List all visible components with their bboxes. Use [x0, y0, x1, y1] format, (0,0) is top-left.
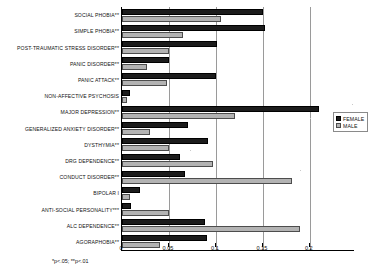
bar-male [122, 226, 300, 232]
category-label: DRG DEPENDENCE** [65, 158, 119, 164]
bar-female [122, 187, 140, 193]
category-label: PANIC ATTACK** [78, 77, 119, 83]
significance-footnote: *p<.05; **p<.01 [52, 258, 89, 264]
bar-female [122, 73, 216, 79]
legend-label-female: FEMALE [343, 116, 364, 122]
bar-male [122, 129, 150, 135]
category-label: GENERALIZED ANXIETY DISORDER** [25, 126, 119, 132]
category-label: PANIC DISORDER** [70, 61, 119, 67]
bar-male [122, 80, 167, 86]
bar-male [122, 97, 127, 103]
category-label: ANTI-SOCIAL PERSONALITY*** [42, 207, 119, 213]
bar-male [122, 145, 169, 151]
scan-artifact [300, 170, 301, 171]
bar-female [122, 171, 185, 177]
bar-male [122, 161, 213, 167]
legend-swatch-female [336, 116, 341, 121]
category-label: SOCIAL PHOBIA** [74, 12, 119, 18]
bar-male [122, 178, 292, 184]
bar-group [122, 153, 392, 169]
bar-group [122, 137, 392, 153]
bar-male [122, 32, 183, 38]
bar-female [122, 138, 208, 144]
plot-area [121, 7, 354, 251]
chart-legend: FEMALE MALE [333, 112, 368, 132]
bar-male [122, 16, 221, 22]
bar-group [122, 88, 392, 104]
bar-female [122, 25, 265, 31]
scan-artifact [190, 150, 191, 151]
bar-female [122, 122, 188, 128]
chart-figure: FEMALE MALE *p<.05; **p<.01 00.050.10.15… [0, 0, 392, 278]
bar-group [122, 218, 392, 234]
legend-item-female: FEMALE [336, 115, 364, 122]
category-label: SIMPLE PHOBIA** [74, 28, 119, 34]
bar-female [122, 106, 319, 112]
bar-group [122, 56, 392, 72]
bar-group [122, 169, 392, 185]
bar-group [122, 72, 392, 88]
category-label: CONDUCT DISORDER** [60, 174, 119, 180]
bar-group [122, 201, 392, 217]
legend-item-male: MALE [336, 122, 364, 129]
legend-swatch-male [336, 123, 341, 128]
bar-male [122, 113, 235, 119]
x-axis-tick-label: 0 [119, 245, 122, 251]
bar-male [122, 194, 130, 200]
category-label: BIPOLAR I [93, 190, 119, 196]
bar-female [122, 154, 180, 160]
category-label: AGORAPHOBIA** [76, 239, 119, 245]
scan-artifact [352, 104, 353, 105]
bar-male [122, 210, 169, 216]
x-axis-tick-label: 0.2 [305, 245, 313, 251]
x-axis-tick-label: 0.1 [211, 245, 219, 251]
category-label: MAJOR DEPRESSION** [61, 109, 119, 115]
x-axis-tick-label: 0.05 [163, 245, 174, 251]
bar-female [122, 219, 205, 225]
bar-female [122, 57, 169, 63]
bar-male [122, 48, 169, 54]
category-label: DYSTHYMIA** [84, 142, 119, 148]
bar-male [122, 64, 147, 70]
legend-label-male: MALE [343, 123, 358, 129]
bar-female [122, 90, 130, 96]
bar-female [122, 203, 131, 209]
bar-female [122, 235, 207, 241]
category-label: NON-AFFECTIVE PSYCHOSIS [45, 93, 119, 99]
scan-artifact [310, 118, 311, 119]
bar-group [122, 23, 392, 39]
bar-group [122, 39, 392, 55]
bar-group [122, 7, 392, 23]
bar-female [122, 9, 263, 15]
category-label: POST-TRAUMATIC STRESS DISORDER** [17, 45, 119, 51]
bar-female [122, 41, 217, 47]
category-label: ALC DEPENDENCE** [67, 223, 119, 229]
bar-male [122, 242, 160, 248]
bar-group [122, 185, 392, 201]
x-axis-tick-label: 0.15 [256, 245, 267, 251]
